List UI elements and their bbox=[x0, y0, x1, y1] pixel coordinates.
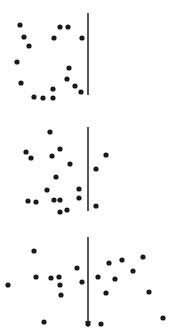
dot bbox=[25, 198, 30, 203]
dot bbox=[21, 34, 26, 39]
dot bbox=[160, 315, 165, 320]
dot bbox=[64, 207, 69, 212]
dot bbox=[103, 152, 108, 157]
dot bbox=[50, 95, 55, 100]
dot bbox=[48, 275, 53, 280]
dot bbox=[50, 86, 55, 91]
dot bbox=[49, 153, 54, 158]
dot bbox=[51, 35, 56, 40]
dot bbox=[47, 129, 52, 134]
dot-diagram bbox=[0, 0, 180, 336]
dot bbox=[72, 83, 77, 88]
dot bbox=[79, 279, 84, 284]
panel-middle bbox=[23, 127, 108, 215]
dot bbox=[93, 166, 98, 171]
dot bbox=[57, 197, 62, 202]
dot bbox=[78, 89, 83, 94]
dot bbox=[58, 292, 63, 297]
panels-group bbox=[5, 13, 165, 327]
dot bbox=[57, 146, 62, 151]
dot bbox=[103, 290, 108, 295]
dot bbox=[57, 282, 62, 287]
dot bbox=[56, 274, 61, 279]
dot bbox=[67, 161, 72, 166]
dot bbox=[26, 43, 31, 48]
dot bbox=[33, 199, 38, 204]
dot bbox=[44, 187, 49, 192]
dot bbox=[41, 319, 46, 324]
dot bbox=[53, 174, 58, 179]
dot bbox=[140, 254, 145, 259]
dot bbox=[57, 24, 62, 29]
dot bbox=[23, 149, 28, 154]
dot bbox=[130, 268, 135, 273]
dot bbox=[65, 24, 70, 29]
dot bbox=[74, 265, 79, 270]
dot bbox=[5, 282, 10, 287]
dot bbox=[98, 321, 103, 326]
panel-top bbox=[14, 13, 88, 101]
dot bbox=[79, 35, 84, 40]
dot bbox=[112, 276, 117, 281]
dot bbox=[85, 321, 90, 326]
dot bbox=[33, 274, 38, 279]
dot bbox=[119, 257, 124, 262]
dot bbox=[18, 80, 23, 85]
dot bbox=[17, 22, 22, 27]
dot bbox=[51, 197, 56, 202]
dot bbox=[31, 94, 36, 99]
dot bbox=[95, 274, 100, 279]
dot bbox=[57, 209, 62, 214]
dot bbox=[40, 95, 45, 100]
panel-bottom bbox=[5, 237, 165, 327]
dot bbox=[76, 195, 81, 200]
dot bbox=[64, 76, 69, 81]
dot bbox=[66, 65, 71, 70]
dot bbox=[106, 260, 111, 265]
dot bbox=[93, 203, 98, 208]
dot bbox=[31, 248, 36, 253]
dot bbox=[76, 186, 81, 191]
dot bbox=[28, 155, 33, 160]
dot bbox=[14, 59, 19, 64]
dot bbox=[146, 289, 151, 294]
